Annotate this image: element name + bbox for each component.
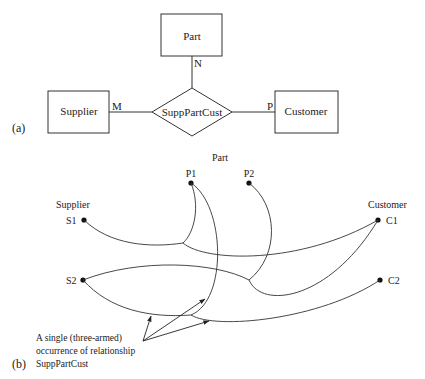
entity-customer-label: Customer: [285, 105, 328, 117]
arm-s2-occ2: [83, 265, 249, 280]
arm-p1-occ1: [183, 183, 196, 243]
relationship-label: SuppPartCust: [162, 106, 223, 118]
group-label-supplier: Supplier: [56, 199, 91, 210]
arm-p2: [249, 183, 272, 280]
arm-s2-occ3: [83, 280, 191, 316]
annotation-arrow-2: [143, 299, 205, 341]
diagram-svg: Part N Supplier M SuppPartCust P Custome…: [0, 0, 425, 379]
cardinality-m: M: [112, 100, 122, 112]
cardinality-n: N: [194, 57, 202, 69]
node-p2-label: P2: [244, 168, 255, 179]
arm-c2: [191, 280, 380, 322]
annotation-arrow-1: [143, 316, 151, 341]
group-label-part: Part: [212, 152, 228, 163]
arm-s1: [84, 220, 183, 245]
er-diagram-figure: Part N Supplier M SuppPartCust P Custome…: [0, 0, 425, 379]
arm-c1-occ2: [249, 220, 378, 296]
node-s1-label: S1: [66, 215, 77, 226]
node-p1-label: P1: [186, 168, 197, 179]
node-c2-label: C2: [388, 275, 400, 286]
arm-c1-occ1: [183, 220, 378, 256]
annotation-line-1: A single (three-armed): [36, 333, 122, 344]
annotation-arrow-3: [143, 321, 209, 341]
arm-p1-occ3: [191, 183, 218, 315]
node-c1-label: C1: [386, 215, 398, 226]
occurrence-diagram-b: Part Supplier Customer P1 P2 S1 S2 C1 C2: [12, 152, 408, 371]
entity-part-label: Part: [183, 30, 201, 42]
annotation-line-3: SuppPartCust: [36, 359, 89, 369]
er-diagram-a: Part N Supplier M SuppPartCust P Custome…: [12, 14, 338, 136]
figure-label-b: (b): [12, 357, 26, 371]
group-label-customer: Customer: [368, 199, 408, 210]
node-s2-label: S2: [66, 275, 77, 286]
cardinality-p: P: [267, 100, 273, 112]
entity-supplier-label: Supplier: [60, 105, 98, 117]
annotation-line-2: occurrence of relationship: [36, 346, 135, 356]
figure-label-a: (a): [12, 121, 25, 135]
